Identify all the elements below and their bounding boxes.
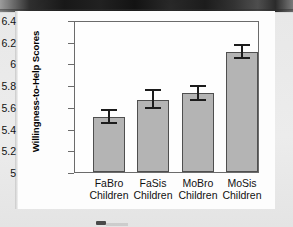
error-cap-top-fabro <box>101 109 117 111</box>
y-tick-label: 5.6 <box>0 103 16 114</box>
bar-fabro <box>93 117 125 172</box>
error-cap-bottom-fasis <box>145 107 161 109</box>
error-cap-top-fasis <box>145 89 161 91</box>
error-cap-bottom-mosis <box>234 57 250 59</box>
bar-group-mobro <box>182 22 214 172</box>
y-tick-label: 6.4 <box>0 16 16 27</box>
y-tick-label: 5.2 <box>0 146 16 157</box>
y-tick-mark <box>68 173 74 174</box>
bar-group-fabro <box>93 22 125 172</box>
x-tick-label-mosis: MoSis Children <box>206 178 278 201</box>
y-tick-label: 6 <box>0 59 16 70</box>
caption-marker-fragment <box>96 221 106 225</box>
x-tick-line1: MoSis <box>206 178 278 190</box>
y-tick-label: 5 <box>0 168 16 179</box>
error-cap-top-mosis <box>234 44 250 46</box>
error-cap-bottom-fabro <box>101 122 117 124</box>
bar-mobro <box>182 93 214 172</box>
bar-group-fasis <box>137 22 169 172</box>
plot-area <box>74 21 259 173</box>
bar-chart: Willingness-to-Help Scores 6.4 6.2 6 5.8… <box>18 11 275 209</box>
y-tick-label: 5.8 <box>0 81 16 92</box>
bar-fasis <box>137 100 169 172</box>
y-axis-label: Willingness-to-Help Scores <box>30 17 41 167</box>
error-cap-bottom-mobro <box>190 99 206 101</box>
error-cap-top-mobro <box>190 85 206 87</box>
y-tick-label: 5.4 <box>0 125 16 136</box>
bar-group-mosis <box>226 22 258 172</box>
bar-mosis <box>226 52 258 172</box>
caption-text-fragment <box>106 223 128 226</box>
figure-card: Willingness-to-Help Scores 6.4 6.2 6 5.8… <box>18 11 275 209</box>
scanned-page-background: Willingness-to-Help Scores 6.4 6.2 6 5.8… <box>0 0 293 227</box>
y-tick-label: 6.2 <box>0 38 16 49</box>
x-tick-line2: Children <box>206 190 278 202</box>
